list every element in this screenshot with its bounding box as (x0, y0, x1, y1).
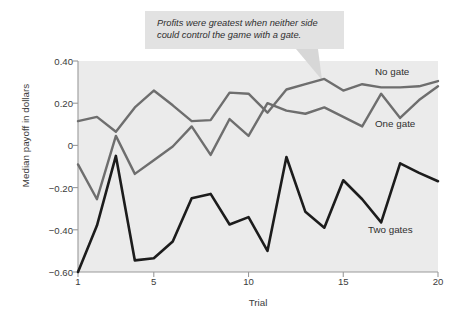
y-tick-label: 0.40 (37, 56, 73, 67)
x-tick-label: 1 (75, 276, 80, 287)
x-axis-title: Trial (78, 297, 438, 308)
y-tick-label: 0 (37, 140, 73, 151)
x-tick-label: 5 (151, 276, 156, 287)
y-axis-title: Median payoff in dollars (20, 66, 31, 206)
series-label-one-gate: One gate (375, 118, 415, 129)
y-tick-label: −0.60 (37, 267, 73, 278)
x-tick-label: 10 (243, 276, 254, 287)
series-label-two-gates: Two gates (368, 224, 413, 235)
y-tick-label: −0.40 (37, 224, 73, 235)
data-series-group (78, 79, 438, 272)
chart-figure: Profits were greatest when neither side … (0, 0, 466, 329)
series-label-no-gate: No gate (375, 66, 409, 77)
y-tick-label-group: 0.400.200−0.20−0.40−0.60 (31, 0, 73, 329)
y-tick-label: −0.20 (37, 182, 73, 193)
x-tick-label: 15 (338, 276, 349, 287)
y-axis-ticks (73, 61, 78, 272)
y-tick-label: 0.20 (37, 98, 73, 109)
x-tick-label: 20 (433, 276, 444, 287)
x-axis-ticks (78, 272, 438, 277)
series-line-two-gates (78, 156, 438, 272)
